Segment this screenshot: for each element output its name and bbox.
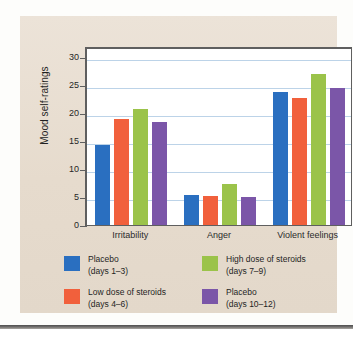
bar	[203, 196, 218, 225]
bar	[114, 119, 129, 225]
y-axis-spine	[85, 47, 87, 227]
legend-swatch	[202, 256, 218, 271]
legend-label-line-1: High dose of steroids	[226, 254, 306, 266]
bar	[184, 195, 199, 225]
bar	[241, 197, 256, 226]
bar	[311, 74, 326, 225]
bar	[152, 122, 167, 226]
y-axis-tick	[80, 58, 85, 59]
legend-label-line-2: (days 1–3)	[88, 266, 128, 278]
y-axis-tick-label: 20	[60, 108, 79, 118]
y-axis-tick-label: 30	[60, 52, 79, 62]
legend-item: Placebo(days 1–3)	[64, 254, 204, 287]
legend-label-line-2: (days 10–12)	[226, 299, 276, 311]
legend-label: Placebo(days 10–12)	[226, 287, 276, 310]
legend-label-line-1: Placebo	[226, 287, 276, 299]
scanned-page-background: Mood self-ratings 051015202530 Irritabil…	[0, 0, 353, 337]
legend-label: Low dose of steroids(days 4–6)	[88, 287, 166, 310]
legend-label-line-2: (days 7–9)	[226, 266, 306, 278]
bar	[292, 98, 307, 225]
legend-swatch	[202, 289, 218, 304]
legend-label: High dose of steroids(days 7–9)	[226, 254, 306, 277]
y-axis-tick-label: 0	[60, 220, 79, 230]
y-axis-tick	[80, 170, 85, 171]
bar	[95, 145, 110, 226]
legend-label-line-1: Low dose of steroids	[88, 287, 166, 299]
legend-item: Low dose of steroids(days 4–6)	[64, 287, 204, 320]
legend-label: Placebo(days 1–3)	[88, 254, 128, 277]
figure-panel: Mood self-ratings 051015202530 Irritabil…	[20, 16, 337, 313]
legend-label-line-2: (days 4–6)	[88, 299, 166, 311]
bar	[133, 109, 148, 225]
y-axis-tick	[80, 114, 85, 115]
y-axis-tick-label: 25	[60, 80, 79, 90]
page-bottom-margin	[0, 329, 353, 337]
legend-item: High dose of steroids(days 7–9)	[202, 254, 342, 287]
legend-column-left: Placebo(days 1–3)Low dose of steroids(da…	[64, 254, 204, 320]
y-axis-tick	[80, 142, 85, 143]
legend-swatch	[64, 289, 80, 304]
bar	[330, 88, 345, 225]
legend-swatch	[64, 256, 80, 271]
bar	[222, 184, 237, 225]
y-axis-tick	[80, 86, 85, 87]
y-axis-tick-label: 10	[60, 164, 79, 174]
y-axis-tick-label: 5	[60, 192, 79, 202]
y-axis-tick-label: 15	[60, 136, 79, 146]
legend-label-line-1: Placebo	[88, 254, 128, 266]
legend-item: Placebo(days 10–12)	[202, 287, 342, 320]
y-axis-tick	[80, 198, 85, 199]
y-axis-tick	[80, 226, 85, 227]
x-axis-label-violent-feelings: Violent feelings	[248, 230, 353, 240]
plot-area	[86, 47, 352, 226]
bar	[273, 92, 288, 225]
gridline	[87, 60, 351, 61]
y-axis-title: Mood self-ratings	[39, 46, 50, 166]
legend-column-right: High dose of steroids(days 7–9)Placebo(d…	[202, 254, 342, 320]
